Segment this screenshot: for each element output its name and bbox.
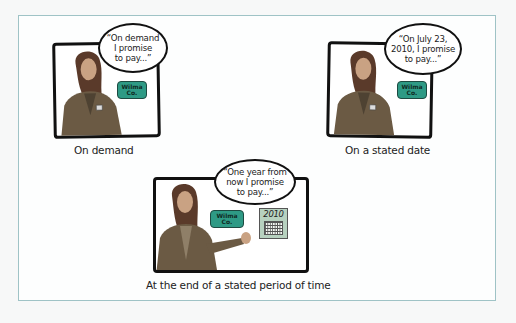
calendar-icon: 2010 bbox=[259, 208, 288, 239]
speech-bubble: “One year from now I promise to pay...” bbox=[214, 159, 296, 205]
speech-text: “One year from now I promise to pay...” bbox=[223, 167, 286, 197]
panel-caption: At the end of a stated period of time bbox=[146, 279, 331, 291]
company-badge: Wilma Co. bbox=[117, 81, 147, 99]
speech-text: “On July 23, 2010, I promise to pay...” bbox=[391, 34, 455, 64]
company-badge: Wilma Co. bbox=[397, 81, 427, 99]
speech-bubble: “On July 23, 2010, I promise to pay...” bbox=[384, 23, 462, 75]
calendar-year: 2010 bbox=[260, 209, 287, 219]
calendar-grid bbox=[264, 221, 283, 235]
panel-caption: On a stated date bbox=[345, 144, 430, 156]
company-badge: Wilma Co. bbox=[210, 210, 244, 228]
speech-bubble: “On demand I promise to pay...” bbox=[98, 23, 168, 73]
speech-text: “On demand I promise to pay...” bbox=[107, 33, 159, 63]
panel-caption: On demand bbox=[74, 144, 134, 156]
